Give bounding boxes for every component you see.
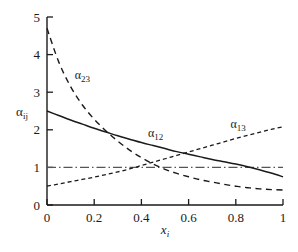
y-tick-label: 0 [34, 198, 41, 213]
curve-alpha-13 [47, 127, 283, 186]
y-tick-label: 3 [34, 85, 41, 100]
y-tick-label: 5 [34, 10, 41, 25]
curve-alpha-23 [47, 28, 283, 190]
svg-text:xi: xi [160, 222, 170, 239]
x-tick-label: 1 [280, 210, 287, 225]
chart-canvas: 012345 00.20.40.60.81 α23α12α13 αij xi [0, 0, 298, 252]
alpha-23-label: α23 [75, 68, 91, 84]
x-tick-label: 0.4 [133, 210, 150, 225]
svg-text:αij: αij [16, 104, 28, 121]
y-axis-tick-labels: 012345 [34, 10, 41, 213]
alpha-13-label: α13 [231, 117, 247, 133]
x-axis-ticks [47, 199, 283, 205]
y-tick-label: 2 [34, 122, 41, 137]
data-curves [47, 28, 283, 190]
chart-figure: 012345 00.20.40.60.81 α23α12α13 αij xi [0, 0, 298, 252]
alpha-12-label: α12 [148, 126, 163, 142]
x-tick-label: 0.6 [180, 210, 197, 225]
x-tick-label: 0.8 [228, 210, 244, 225]
y-axis-title: αij [16, 104, 28, 121]
x-axis-title: xi [160, 222, 170, 239]
y-tick-label: 1 [34, 160, 41, 175]
x-tick-label: 0.2 [86, 210, 102, 225]
curve-annotations: α23α12α13 [75, 68, 247, 142]
x-tick-label: 0 [44, 210, 51, 225]
y-tick-label: 4 [34, 47, 41, 62]
